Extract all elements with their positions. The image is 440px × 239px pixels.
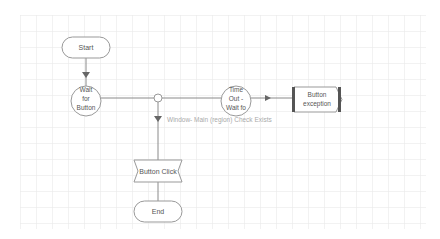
svg-text:Button: Button [308, 91, 327, 98]
svg-text:Button Click: Button Click [139, 168, 177, 175]
svg-text:Wait fo: Wait fo [226, 104, 246, 111]
node-end[interactable]: End [134, 201, 182, 222]
exception-bar-left [292, 87, 295, 112]
node-junction[interactable] [154, 94, 162, 102]
node-button-click[interactable]: Button Click [134, 160, 182, 182]
svg-text:exception: exception [303, 100, 331, 108]
node-start[interactable]: Start [62, 37, 110, 58]
svg-text:Out -: Out - [229, 95, 243, 102]
node-wait-for-button[interactable]: Wait for Button [71, 86, 101, 116]
svg-text:End: End [152, 208, 165, 215]
svg-text:Button: Button [77, 104, 96, 111]
svg-text:Wait: Wait [80, 86, 93, 93]
edge-label-check-exists: Window- Main (region) Check Exists [167, 116, 273, 124]
node-button-exception[interactable]: Button exception [292, 87, 342, 112]
exception-bar-right [338, 87, 341, 112]
diagram-canvas[interactable]: Window- Main (region) Check Exists Start… [0, 0, 440, 239]
svg-text:Time: Time [229, 86, 244, 93]
svg-text:Start: Start [79, 44, 94, 51]
svg-text:for: for [82, 95, 90, 102]
node-timeout[interactable]: Time Out - Wait fo [221, 86, 251, 116]
